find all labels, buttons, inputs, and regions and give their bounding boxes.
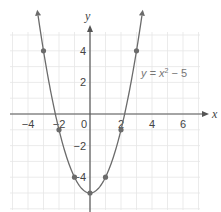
y-axis-label: y [84,9,91,23]
x-tick-label: 4 [149,118,155,130]
data-point [56,127,61,132]
curve-arrow-icon [139,10,145,16]
data-point [118,127,123,132]
data-point [134,48,139,53]
data-point [87,190,92,195]
curve-arrow-icon [35,10,41,16]
grid [10,32,200,210]
x-axis-arrow-icon [202,111,209,117]
x-tick-label: 0 [81,118,87,130]
y-tick-label: 2 [80,76,86,88]
data-point [72,175,77,180]
data-point [103,175,108,180]
data-point [41,48,46,53]
x-axis-label: x [211,107,218,121]
y-axis-arrow-icon [87,25,93,32]
y-tick-label: 4 [80,45,86,57]
x-tick-label: −4 [22,118,35,130]
parabola-chart: x y −4−2024642−2−4 y = x2 − 5 [0,0,221,212]
y-tick-label: −2 [73,140,86,152]
equation-label: y = x2 − 5 [140,67,187,79]
x-tick-label: 6 [180,118,186,130]
